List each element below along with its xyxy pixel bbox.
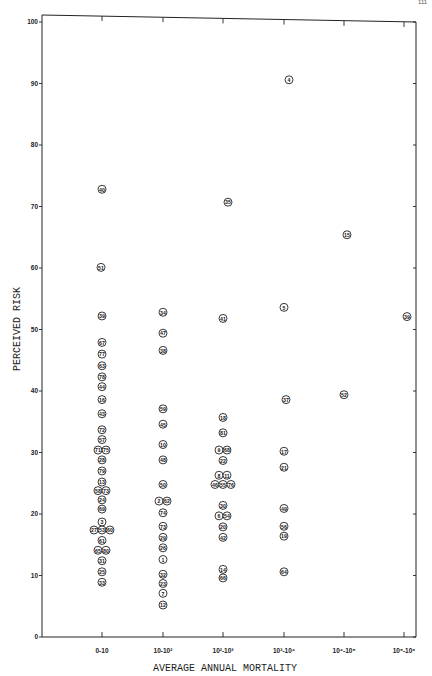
data-point-label: 55	[220, 482, 226, 488]
data-point: 41	[219, 314, 227, 322]
data-point: 54	[223, 512, 231, 520]
data-point: 29	[159, 533, 167, 541]
data-point-label: 28	[99, 457, 105, 463]
data-point-label: 34	[160, 310, 166, 316]
data-point: 81	[219, 429, 227, 437]
data-point: 42	[219, 533, 227, 541]
data-point-label: 77	[99, 351, 105, 357]
data-point: 26	[159, 544, 167, 552]
data-point-label: 56	[281, 524, 287, 530]
data-point-label: 50	[160, 482, 166, 488]
data-point-label: 26	[160, 545, 166, 551]
data-point: 57	[98, 436, 106, 444]
data-point-label: 62	[164, 498, 170, 504]
data-point: 21	[280, 463, 288, 471]
data-point-label: 57	[99, 437, 105, 443]
data-point: 67	[98, 338, 106, 346]
data-point: 62	[163, 497, 171, 505]
data-point-label: 37	[283, 397, 289, 403]
data-point: 61	[98, 536, 106, 544]
data-point: 19	[280, 532, 288, 540]
y-axis-title: PERCEIVED RISK	[12, 287, 23, 371]
data-point: 7	[159, 589, 167, 597]
data-point-label: 3	[101, 519, 104, 525]
y-tick-label: 80	[31, 141, 39, 148]
data-point-label: 72	[99, 427, 105, 433]
data-point-label: 38	[160, 348, 166, 354]
data-point-label: 68	[224, 447, 230, 453]
data-point: 51	[97, 263, 105, 271]
data-point: 44	[98, 383, 106, 391]
data-point: 25	[98, 568, 106, 576]
y-tick-label: 60	[31, 264, 39, 271]
data-point-label: 40	[99, 187, 105, 193]
plot-frame	[42, 15, 416, 637]
data-point: 40	[98, 185, 106, 193]
y-tick-label: 100	[27, 18, 38, 25]
data-point: 28	[98, 456, 106, 464]
data-point-label: 80	[103, 548, 109, 554]
data-point: 15	[343, 231, 351, 239]
y-tick-label: 40	[31, 387, 39, 394]
data-point-label: 67	[99, 340, 105, 346]
data-point: 2	[155, 497, 163, 505]
data-point-label: 52	[341, 392, 347, 398]
x-tick-label: 10-10²	[154, 647, 174, 654]
data-point-label: 65	[95, 548, 101, 554]
data-point-label: 69	[99, 506, 105, 512]
data-point-label: 66	[220, 575, 226, 581]
data-point-label: 20	[220, 524, 226, 530]
data-point-label: 61	[99, 538, 105, 544]
data-point-label: 32	[160, 572, 166, 578]
data-point-label: 16	[99, 397, 105, 403]
data-point-label: 51	[98, 265, 104, 271]
data-point-label: 53	[99, 527, 105, 533]
y-tick-label: 20	[31, 510, 39, 517]
data-point-label: 73	[103, 488, 109, 494]
data-point: 20	[219, 523, 227, 531]
x-axis-title: AVERAGE ANNUAL MORTALITY	[153, 663, 297, 674]
data-point-label: 54	[224, 513, 230, 519]
y-tick-label: 30	[31, 449, 39, 456]
data-point: 8	[215, 471, 223, 479]
data-point: 58	[94, 487, 102, 495]
data-point: 3	[98, 518, 106, 526]
data-point: 45	[159, 420, 167, 428]
data-point: 13	[98, 478, 106, 486]
data-point: 56	[280, 522, 288, 530]
data-point-label: 1	[162, 557, 165, 563]
data-point: 76	[227, 480, 235, 488]
data-point: 9	[215, 446, 223, 454]
data-point: 79	[98, 467, 106, 475]
data-point-label: 10	[160, 442, 166, 448]
y-tick-label: 10	[31, 572, 39, 579]
data-point-label: 25	[99, 569, 105, 575]
data-point: 59	[159, 405, 167, 413]
data-point-label: 5	[283, 305, 286, 311]
data-point: 18	[219, 413, 227, 421]
data-point-label: 81	[220, 430, 226, 436]
y-tick-label: 90	[31, 80, 39, 87]
data-point: 47	[159, 329, 167, 337]
y-tick-label: 70	[31, 203, 39, 210]
data-point: 75	[102, 446, 110, 454]
data-point-label: 73	[160, 524, 166, 530]
data-point-label: 15	[344, 232, 350, 238]
data-point-label: 44	[99, 384, 105, 390]
data-point: 6	[215, 512, 223, 520]
x-tick-label: 10⁵-10⁶	[393, 647, 416, 654]
data-point-label: 14	[220, 567, 226, 573]
data-point-label: 59	[160, 406, 166, 412]
data-point: 31	[98, 557, 106, 565]
data-point-label: 60	[107, 527, 113, 533]
data-point: 52	[340, 391, 348, 399]
data-point-label: 39	[99, 313, 105, 319]
data-point-label: 64	[281, 569, 287, 575]
data-point: 73	[102, 487, 110, 495]
data-point-label: 9	[218, 447, 221, 453]
data-point-label: 63	[99, 363, 105, 369]
data-point: 37	[282, 396, 290, 404]
data-point: 60	[106, 526, 114, 534]
data-point-label: 45	[160, 422, 166, 428]
data-point-label: 79	[99, 468, 105, 474]
